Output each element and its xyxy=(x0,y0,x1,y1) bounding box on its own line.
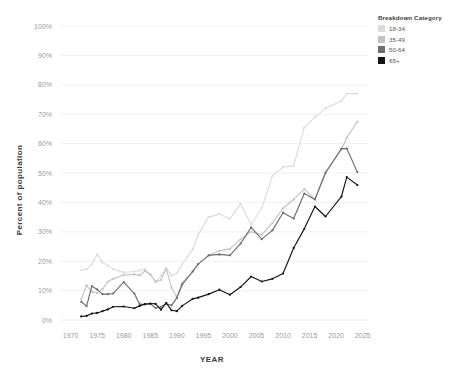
series-line xyxy=(81,149,357,308)
data-point xyxy=(346,176,348,178)
data-point xyxy=(197,234,199,236)
data-point xyxy=(139,305,141,307)
data-point xyxy=(261,238,263,240)
series-50-64 xyxy=(80,148,358,310)
x-axis-tick-label: 2010 xyxy=(275,332,291,339)
data-point xyxy=(123,305,125,307)
y-axis-tick-label: 40% xyxy=(38,199,52,206)
data-point xyxy=(91,263,93,265)
data-point xyxy=(85,305,87,307)
data-point xyxy=(170,309,172,311)
data-point xyxy=(271,229,273,231)
data-point xyxy=(101,261,103,263)
legend-item-35-49[interactable]: 35-49 xyxy=(378,35,456,44)
data-point xyxy=(165,267,167,269)
data-point xyxy=(239,242,241,244)
data-point xyxy=(160,279,162,281)
x-axis-title: YEAR xyxy=(200,355,224,364)
data-point xyxy=(293,217,295,219)
data-point xyxy=(96,292,98,294)
data-point xyxy=(303,188,305,190)
data-point xyxy=(112,292,114,294)
data-point xyxy=(154,303,156,305)
y-axis-tick-label: 60% xyxy=(38,140,52,147)
data-point xyxy=(176,297,178,299)
data-point xyxy=(208,216,210,218)
y-axis-tick-label: 100% xyxy=(34,23,52,30)
data-point xyxy=(160,306,162,308)
x-axis-tick-label: 2020 xyxy=(328,332,344,339)
x-axis-tick-label: 1990 xyxy=(169,332,185,339)
data-point xyxy=(80,298,82,300)
data-point xyxy=(112,268,114,270)
data-point xyxy=(229,217,231,219)
data-point xyxy=(101,293,103,295)
data-point xyxy=(176,310,178,312)
legend-item-label: 65+ xyxy=(389,57,400,64)
data-point xyxy=(80,269,82,271)
data-point xyxy=(250,231,252,233)
data-point xyxy=(293,165,295,167)
data-point xyxy=(192,248,194,250)
data-point xyxy=(91,312,93,314)
data-point xyxy=(229,294,231,296)
x-axis-tick-label: 1970 xyxy=(63,332,79,339)
data-point xyxy=(160,275,162,277)
data-point xyxy=(160,309,162,311)
data-point xyxy=(218,213,220,215)
legend-items: 18-3435-4950-6465+ xyxy=(378,24,456,65)
y-axis-tick-label: 50% xyxy=(38,170,52,177)
data-point xyxy=(192,298,194,300)
x-axis-tick-label: 2015 xyxy=(302,332,318,339)
data-point xyxy=(181,305,183,307)
data-point xyxy=(271,278,273,280)
data-point xyxy=(101,310,103,312)
data-point xyxy=(314,116,316,118)
x-axis-tick-label: 1985 xyxy=(142,332,158,339)
data-point xyxy=(96,312,98,314)
y-axis-tick-labels: 0%10%20%30%40%50%60%70%80%90%100% xyxy=(34,23,52,324)
y-axis-tick-label: 20% xyxy=(38,258,52,265)
data-point xyxy=(123,271,125,273)
y-axis-tick-label: 90% xyxy=(38,52,52,59)
data-point xyxy=(250,223,252,225)
legend-item-50-64[interactable]: 50-64 xyxy=(378,45,456,54)
data-point xyxy=(314,198,316,200)
y-axis-tick-label: 30% xyxy=(38,228,52,235)
legend-swatch-icon xyxy=(378,57,385,64)
data-point xyxy=(303,228,305,230)
data-point xyxy=(282,212,284,214)
legend-item-18-34[interactable]: 18-34 xyxy=(378,24,456,33)
data-point xyxy=(239,238,241,240)
y-axis-title: Percent of population xyxy=(15,145,24,236)
data-point xyxy=(133,273,135,275)
data-point xyxy=(107,293,109,295)
data-point xyxy=(303,126,305,128)
chart-container: 0%10%20%30%40%50%60%70%80%90%100% 197019… xyxy=(0,0,458,376)
legend-item-label: 18-34 xyxy=(389,25,405,32)
data-point xyxy=(144,270,146,272)
data-point xyxy=(282,166,284,168)
data-point xyxy=(340,148,342,150)
data-point xyxy=(197,263,199,265)
data-point xyxy=(85,315,87,317)
data-point xyxy=(314,205,316,207)
data-point xyxy=(293,247,295,249)
data-point xyxy=(239,203,241,205)
data-point xyxy=(324,215,326,217)
data-point xyxy=(181,284,183,286)
data-series-group xyxy=(80,93,358,318)
data-point xyxy=(208,254,210,256)
gridlines-group xyxy=(60,26,368,320)
data-point xyxy=(154,307,156,309)
data-point xyxy=(356,171,358,173)
data-point xyxy=(324,172,326,174)
legend-item-65+[interactable]: 65+ xyxy=(378,56,456,65)
data-point xyxy=(123,274,125,276)
data-point xyxy=(218,289,220,291)
data-point xyxy=(229,254,231,256)
data-point xyxy=(218,250,220,252)
data-point xyxy=(123,281,125,283)
data-point xyxy=(107,265,109,267)
data-point xyxy=(261,234,263,236)
